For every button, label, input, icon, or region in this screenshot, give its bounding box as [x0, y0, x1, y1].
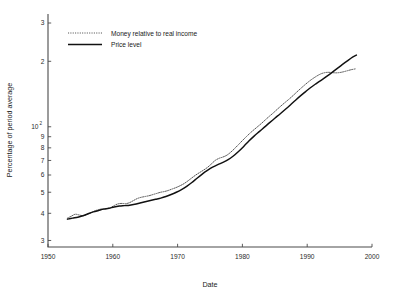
x-tick-label: 1970 [170, 253, 185, 260]
chart-legend: Money relative to real incomePrice level [68, 30, 197, 49]
x-tick-label: 1990 [300, 253, 315, 260]
y-tick-label: 10 [31, 123, 39, 130]
x-axis-title: Date [202, 280, 217, 289]
x-tick-label: 1980 [235, 253, 250, 260]
legend-label: Price level [111, 41, 142, 48]
y-tick-label: 3 [41, 19, 45, 26]
y-tick-label: 5 [41, 189, 45, 196]
y-tick-label: 4 [41, 210, 45, 217]
data-series [67, 55, 356, 219]
legend-label: Money relative to real income [111, 30, 197, 38]
y-tick-label: 7 [41, 157, 45, 164]
y-tick-label: 3 [41, 237, 45, 244]
y-axis-title: Percentage of period average [5, 83, 14, 178]
series-line-money-relative-to-real-income [67, 69, 355, 218]
y-tick-label: 6 [41, 171, 45, 178]
x-axis-ticks: 195019601970198019902000 [41, 244, 380, 260]
axes [48, 14, 372, 247]
y-tick-label: 8 [41, 144, 45, 151]
axis-lines [48, 14, 372, 247]
x-tick-label: 1950 [41, 253, 56, 260]
x-tick-label: 1960 [105, 253, 120, 260]
y-tick-label: 2 [41, 58, 45, 65]
x-tick-label: 2000 [365, 253, 380, 260]
series-line-price-level [67, 55, 356, 219]
line-chart: 345678910223 195019601970198019902000 Mo… [0, 0, 396, 293]
y-tick-label: 9 [41, 133, 45, 140]
chart-container: 345678910223 195019601970198019902000 Mo… [0, 0, 396, 293]
y-tick-label-exponent: 2 [39, 121, 42, 126]
